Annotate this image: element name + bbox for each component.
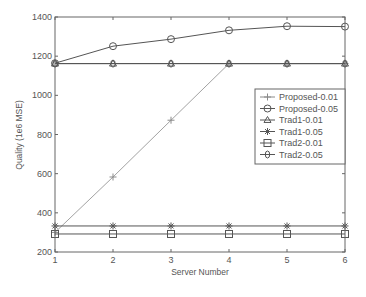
series-line	[55, 26, 345, 63]
series-trad1-0-05	[52, 222, 349, 229]
series-trad1-0-01	[52, 60, 349, 66]
y-tick-label: 800	[37, 130, 52, 140]
asterisk-marker-icon	[284, 222, 291, 229]
legend-label: Proposed-0.05	[279, 104, 338, 114]
asterisk-marker-icon	[264, 128, 271, 135]
x-tick-label: 2	[110, 255, 115, 265]
y-tick-label: 1200	[32, 51, 52, 61]
y-tick-label: 600	[37, 169, 52, 179]
x-tick-label: 6	[342, 255, 347, 265]
y-tick-label: 200	[37, 247, 52, 257]
legend-label: Proposed-0.01	[279, 92, 338, 102]
x-tick-label: 4	[226, 255, 231, 265]
line-chart: 200400600800100012001400123456 Server Nu…	[0, 0, 366, 297]
series-trad2-0-05	[53, 60, 347, 67]
series-trad2-0-01	[52, 230, 349, 237]
legend: Proposed-0.01Proposed-0.05Trad1-0.01Trad…	[255, 89, 345, 164]
x-tick-label: 3	[168, 255, 173, 265]
legend-label: Trad1-0.05	[279, 127, 323, 137]
asterisk-marker-icon	[110, 222, 117, 229]
legend-item: Trad2-0.01	[260, 138, 323, 148]
x-axis-label: Server Number	[171, 267, 229, 277]
asterisk-marker-icon	[168, 222, 175, 229]
y-axis-label: Quality (1e6 MSE)	[14, 100, 24, 170]
x-tick-label: 1	[52, 255, 57, 265]
y-tick-label: 1000	[32, 90, 52, 100]
y-tick-label: 400	[37, 208, 52, 218]
x-tick-label: 5	[284, 255, 289, 265]
legend-label: Trad1-0.01	[279, 115, 323, 125]
legend-label: Trad2-0.05	[279, 150, 323, 160]
y-tick-label: 1400	[32, 12, 52, 22]
series-proposed-0-05	[52, 23, 349, 67]
legend-label: Trad2-0.01	[279, 138, 323, 148]
asterisk-marker-icon	[226, 222, 233, 229]
